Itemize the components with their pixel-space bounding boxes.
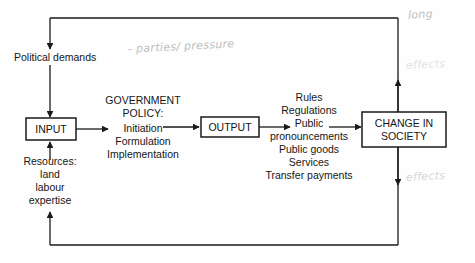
resources-items: land labour expertise: [8, 168, 92, 207]
annotation-effects-upper: effects: [406, 57, 446, 72]
node-change-in-society: CHANGE IN SOCIETY: [362, 112, 446, 147]
policy-outputs-list: Rules Regulations Public pronouncements …: [253, 91, 365, 182]
government-policy-items: Initiation Formulation Implementation: [88, 122, 198, 161]
diagram-canvas: Political demands INPUT OUTPUT CHANGE IN…: [0, 0, 475, 263]
node-output: OUTPUT: [201, 117, 259, 137]
government-policy-heading: GOVERNMENT POLICY:: [88, 94, 198, 120]
node-political-demands: Political demands: [14, 51, 96, 64]
annotation-effects-lower: effects: [406, 169, 446, 184]
resources-heading: Resources:: [8, 155, 92, 168]
node-input: INPUT: [26, 118, 76, 140]
annotation-long: long: [408, 7, 434, 21]
